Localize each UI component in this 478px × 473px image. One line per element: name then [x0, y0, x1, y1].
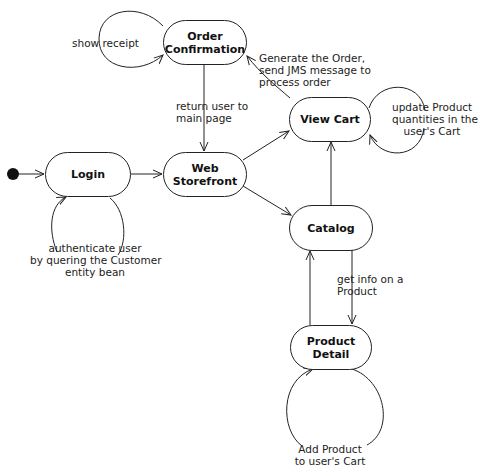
label-show-receipt: show receipt [72, 37, 139, 49]
transition-storefront-catalog [243, 186, 291, 215]
state-label: Web [173, 162, 237, 175]
loop-productdetail-a [352, 369, 383, 445]
state-web-storefront[interactable]: WebStorefront [163, 152, 247, 197]
initial-state-dot [7, 168, 19, 180]
label-get-info: get info on aProduct [337, 273, 403, 297]
state-label: Login [71, 168, 105, 181]
label-update-cart: update Productquantities in theuser's Ca… [392, 101, 472, 137]
state-label: View Cart [300, 113, 360, 126]
transition-storefront-viewcart [243, 131, 289, 160]
label-return-user: return user tomain page [176, 100, 248, 124]
state-label: Order [165, 30, 245, 43]
state-view-cart[interactable]: View Cart [289, 97, 371, 142]
label-generate-order: Generate the Order,send JMS message topr… [259, 52, 371, 88]
label-authenticate: authenticate userby quering the Customer… [30, 242, 160, 278]
state-label: Catalog [307, 222, 354, 235]
state-login[interactable]: Login [45, 152, 131, 197]
state-catalog[interactable]: Catalog [289, 205, 373, 251]
state-order-confirmation[interactable]: OrderConfirmation [163, 20, 247, 65]
state-label: Storefront [173, 175, 237, 188]
state-label: Confirmation [165, 43, 245, 56]
label-add-product: Add Productto user's Cart [289, 443, 371, 467]
state-label: Product Detail [291, 335, 371, 361]
state-product-detail[interactable]: Product Detail [290, 325, 372, 370]
loop-productdetail-b [287, 369, 313, 446]
